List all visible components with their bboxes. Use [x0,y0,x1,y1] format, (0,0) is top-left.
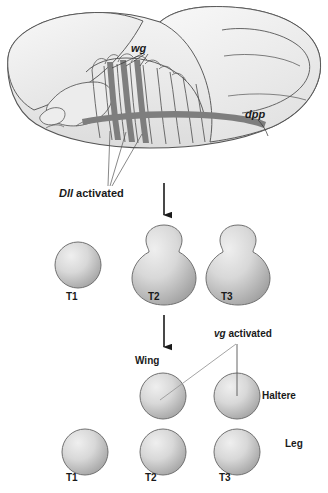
label-dpp: dpp [245,109,265,120]
disc-leg-t2 [140,429,186,475]
label-primordium-t2: T2 [148,292,160,302]
disc-leg-t1 [62,429,108,475]
figure-canvas [0,0,328,493]
primordium-t3 [206,225,270,305]
embryo-illustration [8,7,321,186]
label-haltere: Haltere [262,391,296,401]
label-vg-activated: vg activated [214,329,272,339]
disc-wing [140,373,186,419]
primordia-row [55,225,270,305]
label-wing: Wing [135,356,159,366]
label-leg-t3: T3 [219,473,231,483]
label-dll-activated: Dll activated [59,188,124,199]
dll-gene-name: Dll [59,187,73,199]
label-leg: Leg [285,439,303,449]
label-primordium-t1: T1 [66,292,78,302]
disc-leg-t3 [214,429,260,475]
label-primordium-t3: T3 [221,292,233,302]
primordium-t2 [132,225,196,305]
leg-row [62,429,260,475]
label-leg-t2: T2 [145,473,157,483]
vg-state: activated [226,328,272,339]
label-wg: wg [131,43,146,54]
vg-gene-name: vg [214,328,226,339]
primordium-t1 [55,242,101,288]
dll-state: activated [73,187,124,199]
label-leg-t1: T1 [66,473,78,483]
